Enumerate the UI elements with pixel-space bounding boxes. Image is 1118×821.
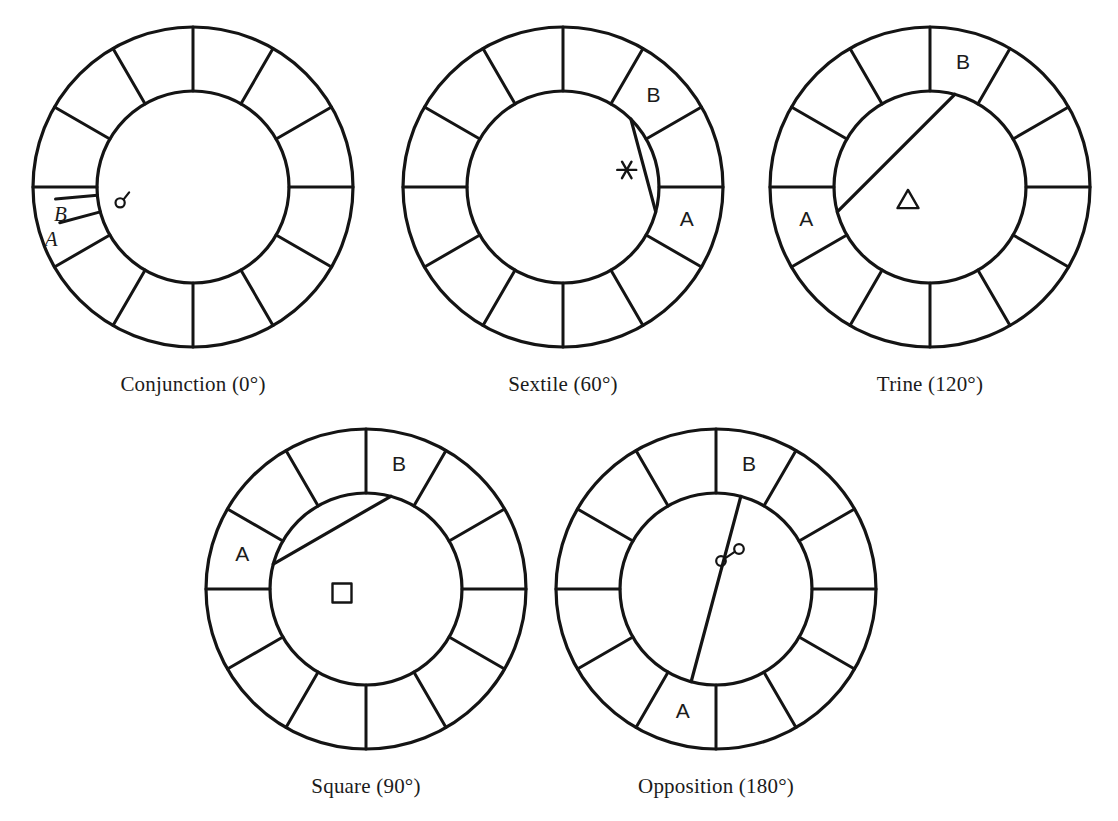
inner-circle bbox=[97, 91, 289, 283]
conjunction-symbol bbox=[116, 192, 130, 207]
sector-divider bbox=[764, 672, 796, 727]
planet-labels: AB bbox=[799, 50, 970, 230]
sector-divider bbox=[799, 637, 854, 669]
sector-divider bbox=[850, 270, 882, 325]
aspects-figure: ABConjunction (0°)ABSextile (60°)ABTrine… bbox=[0, 0, 1118, 821]
sector-divider bbox=[646, 235, 701, 267]
sector-divider bbox=[241, 48, 273, 103]
sector-divider bbox=[636, 450, 668, 505]
sector-divider bbox=[577, 637, 632, 669]
sector-divider bbox=[611, 48, 643, 103]
planet-b-marker bbox=[56, 195, 98, 199]
sector-divider bbox=[636, 672, 668, 727]
opposition-symbol bbox=[716, 544, 744, 566]
wheel-conjunction: AB bbox=[26, 20, 360, 354]
sector-divider bbox=[791, 235, 846, 267]
sector-divider bbox=[286, 672, 318, 727]
planet-a-label: A bbox=[676, 699, 690, 722]
trine-symbol bbox=[898, 190, 919, 208]
sector-divider bbox=[646, 107, 701, 139]
diagram-square: AB bbox=[199, 422, 533, 756]
sector-divider bbox=[764, 450, 796, 505]
diagram-conjunction: AB bbox=[26, 20, 360, 354]
wheel-opposition: AB bbox=[549, 422, 883, 756]
sector-divider bbox=[449, 509, 504, 541]
sector-dividers bbox=[403, 27, 723, 347]
sector-divider bbox=[483, 48, 515, 103]
caption-conjunction: Conjunction (0°) bbox=[0, 372, 393, 397]
sector-dividers bbox=[206, 429, 526, 749]
sector-divider bbox=[799, 509, 854, 541]
sector-divider bbox=[414, 450, 446, 505]
sector-divider bbox=[978, 48, 1010, 103]
wheel-trine: AB bbox=[763, 20, 1097, 354]
sector-divider bbox=[414, 672, 446, 727]
sector-divider bbox=[424, 235, 479, 267]
planet-labels: AB bbox=[43, 202, 67, 251]
sector-divider bbox=[850, 48, 882, 103]
sector-divider bbox=[241, 270, 273, 325]
aspect-chord bbox=[691, 496, 741, 681]
sector-divider bbox=[483, 270, 515, 325]
diagram-sextile: AB bbox=[396, 20, 730, 354]
planet-b-label: B bbox=[54, 202, 67, 226]
diagram-trine: AB bbox=[763, 20, 1097, 354]
sector-divider bbox=[54, 235, 109, 267]
planet-a-label: A bbox=[799, 207, 813, 230]
sector-divider bbox=[611, 270, 643, 325]
sector-divider bbox=[276, 235, 331, 267]
sector-divider bbox=[227, 509, 282, 541]
sector-divider bbox=[1013, 235, 1068, 267]
planet-a-label: A bbox=[680, 207, 694, 230]
planet-b-label: B bbox=[742, 452, 756, 475]
planet-b-label: B bbox=[647, 83, 661, 106]
sector-divider bbox=[978, 270, 1010, 325]
sector-divider bbox=[276, 107, 331, 139]
wheel-square: AB bbox=[199, 422, 533, 756]
sector-divider bbox=[113, 48, 145, 103]
aspect-chord bbox=[837, 94, 955, 212]
sector-dividers bbox=[33, 27, 353, 347]
planet-a-label: A bbox=[43, 227, 58, 251]
sector-dividers bbox=[770, 27, 1090, 347]
caption-square: Square (90°) bbox=[166, 774, 566, 799]
inner-circle bbox=[270, 493, 462, 685]
diagram-opposition: AB bbox=[549, 422, 883, 756]
square-symbol bbox=[333, 584, 352, 603]
sector-divider bbox=[1013, 107, 1068, 139]
planet-b-label: B bbox=[392, 452, 406, 475]
sector-divider bbox=[227, 637, 282, 669]
sector-divider bbox=[54, 107, 109, 139]
sector-divider bbox=[424, 107, 479, 139]
caption-opposition: Opposition (180°) bbox=[516, 774, 916, 799]
planet-a-label: A bbox=[235, 542, 249, 565]
sector-divider bbox=[791, 107, 846, 139]
caption-sextile: Sextile (60°) bbox=[363, 372, 763, 397]
planet-b-label: B bbox=[956, 50, 970, 73]
sector-divider bbox=[449, 637, 504, 669]
wheel-sextile: AB bbox=[396, 20, 730, 354]
caption-trine: Trine (120°) bbox=[730, 372, 1118, 397]
sextile-symbol bbox=[617, 162, 636, 178]
sector-divider bbox=[286, 450, 318, 505]
sector-divider bbox=[113, 270, 145, 325]
sector-divider bbox=[577, 509, 632, 541]
